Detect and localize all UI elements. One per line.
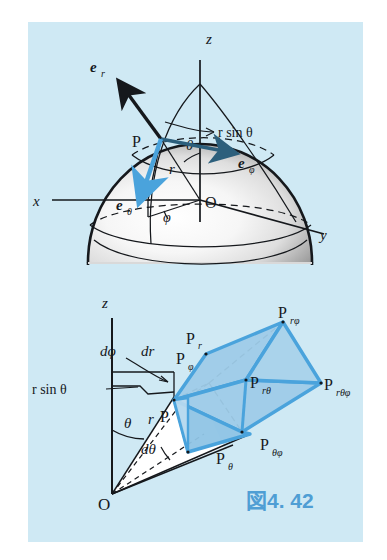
vertex-P-phi-sub: φ xyxy=(188,361,194,372)
vector-e-r-label: e r xyxy=(90,59,105,79)
d-phi-leader xyxy=(126,358,168,382)
origin-O-label: O xyxy=(98,495,110,514)
top-diagram-sphere: z x y xyxy=(28,22,363,284)
vertex-P-rthetaphi-base: P xyxy=(324,376,333,393)
axis-x-label: x xyxy=(32,193,40,209)
figure-page: z x y xyxy=(0,0,387,560)
angle-d-theta-label: dθ xyxy=(141,441,157,457)
r-sin-theta-label-bottom: r sin θ xyxy=(32,382,67,397)
vertex-P-r-sub: r xyxy=(198,340,202,351)
angle-theta-arc-bottom xyxy=(112,430,144,439)
label-P-r: P r xyxy=(186,330,202,351)
label-P-theta: P θ xyxy=(216,450,233,472)
label-P-thetaphi: P θφ xyxy=(260,436,283,458)
vertex-P-rtheta-base: P xyxy=(250,374,259,391)
r-sin-theta-label: r sin θ xyxy=(218,125,253,140)
label-P: P xyxy=(160,408,169,425)
e-theta-base: e xyxy=(116,197,123,213)
r-sin-theta-leader-bottom xyxy=(106,387,138,389)
vertex-P-rtheta-sub: rθ xyxy=(262,385,271,396)
point-P-label: P xyxy=(132,133,141,150)
volume-element-faces xyxy=(174,322,321,452)
vertex-P-thetaphi-base: P xyxy=(260,436,269,453)
angle-theta-label-bottom: θ xyxy=(124,415,132,431)
figure-caption: 図4. 42 xyxy=(246,489,314,512)
vector-e-r xyxy=(120,83,161,139)
e-r-base: e xyxy=(90,59,97,75)
e-r-sub: r xyxy=(101,68,105,79)
axis-y-label: y xyxy=(318,227,327,243)
point-O-label: O xyxy=(205,194,217,211)
vertex-P-phi-base: P xyxy=(176,350,185,367)
d-phi-text: dφ xyxy=(100,343,116,359)
figure-panel: z x y xyxy=(28,22,363,542)
radius-r-label: r xyxy=(169,161,175,177)
vertex-P-theta-base: P xyxy=(216,450,225,467)
axis-z-bottom-label: z xyxy=(101,295,108,311)
e-phi-sub: φ xyxy=(249,164,255,175)
d-r-label: dr xyxy=(141,343,155,359)
vertex-P-r-base: P xyxy=(186,330,195,347)
label-P-rthetaphi: P rθφ xyxy=(324,376,351,398)
r-sin-theta-construction xyxy=(112,372,174,400)
vertex-P-thetaphi-sub: θφ xyxy=(272,447,283,458)
e-phi-base: e xyxy=(238,155,245,171)
d-phi-label: dφ xyxy=(100,343,116,359)
vertex-P-rthetaphi-sub: rθφ xyxy=(336,387,351,398)
vertex-P-rphi-sub: rφ xyxy=(290,315,300,326)
vertex-P-rphi-base: P xyxy=(278,304,287,321)
bottom-diagram-volume-element: z dφ dr r sin θ xyxy=(28,282,363,542)
vertex-P-base: P xyxy=(160,408,169,425)
label-P-phi: P φ xyxy=(176,350,194,372)
axis-z-label: z xyxy=(205,31,212,47)
radius-r-label-bottom: r xyxy=(148,411,154,427)
vertex-P-theta-sub: θ xyxy=(228,461,233,472)
e-theta-sub: θ xyxy=(127,206,132,217)
r-sin-theta-leader xyxy=(165,122,214,136)
angle-phi-label: φ xyxy=(163,210,171,225)
